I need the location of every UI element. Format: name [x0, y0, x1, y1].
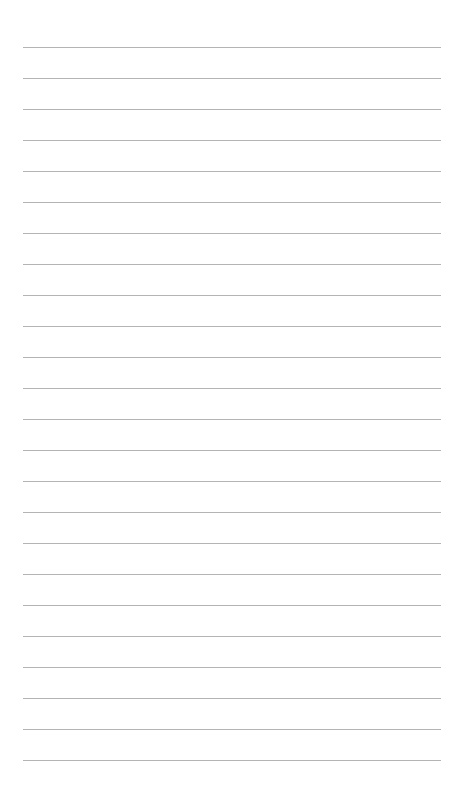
ruled-line [23, 233, 441, 234]
ruled-line [23, 512, 441, 513]
lined-paper-page [0, 0, 467, 795]
ruled-line [23, 109, 441, 110]
ruled-line [23, 450, 441, 451]
ruled-line [23, 605, 441, 606]
ruled-line [23, 388, 441, 389]
ruled-line [23, 698, 441, 699]
ruled-line [23, 295, 441, 296]
ruled-line [23, 326, 441, 327]
ruled-line [23, 357, 441, 358]
ruled-line [23, 140, 441, 141]
ruled-line [23, 419, 441, 420]
ruled-line [23, 47, 441, 48]
ruled-line [23, 729, 441, 730]
ruled-line [23, 636, 441, 637]
ruled-line [23, 574, 441, 575]
ruled-line [23, 481, 441, 482]
ruled-line [23, 264, 441, 265]
ruled-line [23, 171, 441, 172]
ruled-line [23, 543, 441, 544]
ruled-line [23, 667, 441, 668]
ruled-line [23, 202, 441, 203]
ruled-line [23, 760, 441, 761]
ruled-line [23, 78, 441, 79]
